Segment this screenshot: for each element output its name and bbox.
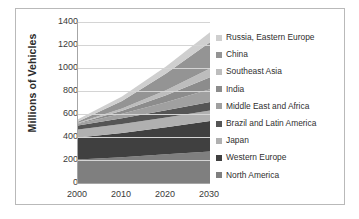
legend-item[interactable]: Western Europe xyxy=(216,149,344,166)
y-tick-label: 1200 xyxy=(38,40,78,49)
y-axis-tick-labels: 0200400600800100012001400 xyxy=(34,9,78,204)
y-tick-label: 400 xyxy=(38,132,78,141)
stacked-area-chart: Millions of Vehicles 0200400600800100012… xyxy=(16,9,344,204)
x-tick-label: 2020 xyxy=(155,189,175,199)
x-tick-label: 2030 xyxy=(199,189,219,199)
y-tick-label: 200 xyxy=(38,155,78,164)
gridline xyxy=(78,68,210,69)
legend-item[interactable]: Japan xyxy=(216,132,344,149)
legend-swatch-icon xyxy=(216,52,222,58)
gridline xyxy=(78,114,210,115)
x-tick-label: 2010 xyxy=(111,189,131,199)
legend-item[interactable]: Brazil and Latin America xyxy=(216,115,344,132)
area-series-group xyxy=(78,22,210,183)
chart-legend: Russia, Eastern EuropeChinaSoutheast Asi… xyxy=(216,29,344,184)
legend-item-label: Western Europe xyxy=(226,153,286,162)
legend-item[interactable]: Middle East and Africa xyxy=(216,98,344,115)
legend-swatch-icon xyxy=(216,172,222,178)
legend-item-label: Japan xyxy=(226,136,249,145)
legend-item[interactable]: India xyxy=(216,81,344,98)
legend-item[interactable]: Southeast Asia xyxy=(216,63,344,80)
chart-frame: Millions of Vehicles 0200400600800100012… xyxy=(15,8,345,205)
y-tick-label: 0 xyxy=(38,178,78,187)
x-tick-label: 2000 xyxy=(67,189,87,199)
legend-item-label: India xyxy=(226,85,244,94)
legend-swatch-icon xyxy=(216,138,222,144)
legend-swatch-icon xyxy=(216,121,222,127)
plot-area xyxy=(77,22,210,184)
gridline xyxy=(78,160,210,161)
legend-item-label: Brazil and Latin America xyxy=(226,119,316,128)
legend-swatch-icon xyxy=(216,155,222,161)
legend-item-label: China xyxy=(226,50,248,59)
legend-item[interactable]: China xyxy=(216,46,344,63)
legend-swatch-icon xyxy=(216,35,222,41)
gridline xyxy=(78,91,210,92)
legend-item-label: Middle East and Africa xyxy=(226,102,309,111)
gridline xyxy=(78,45,210,46)
gridline xyxy=(78,137,210,138)
x-axis-tick-labels: 2000201020202030 xyxy=(77,189,211,203)
legend-item[interactable]: Russia, Eastern Europe xyxy=(216,29,344,46)
legend-swatch-icon xyxy=(216,69,222,75)
legend-item-label: Russia, Eastern Europe xyxy=(226,33,314,42)
legend-swatch-icon xyxy=(216,103,222,109)
legend-item[interactable]: North America xyxy=(216,167,344,184)
y-tick-label: 1400 xyxy=(38,17,78,26)
legend-item-label: Southeast Asia xyxy=(226,67,282,76)
legend-item-label: North America xyxy=(226,171,279,180)
gridline xyxy=(78,22,210,23)
y-tick-label: 800 xyxy=(38,86,78,95)
y-tick-label: 1000 xyxy=(38,63,78,72)
legend-swatch-icon xyxy=(216,86,222,92)
y-tick-label: 600 xyxy=(38,109,78,118)
